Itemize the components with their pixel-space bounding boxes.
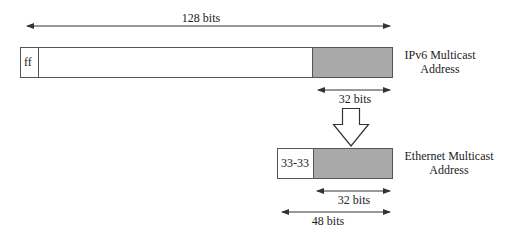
ipv6-address-box [21, 48, 393, 78]
ethernet-name-line2: Address [429, 164, 468, 177]
ipv6-name-line1: IPv6 Multicast [405, 49, 476, 62]
ethernet-name-line1: Ethernet Multicast [405, 150, 494, 163]
ipv6-low-32-field [313, 48, 393, 78]
ethernet-width-label: 48 bits [312, 215, 344, 228]
ethernet-prefix-label: 33-33 [281, 157, 309, 170]
ipv6-low-bits-label: 32 bits [339, 93, 371, 106]
ipv6-width-label: 128 bits [182, 12, 220, 25]
ethernet-low-bits-label: 32 bits [338, 194, 370, 207]
ethernet-low-32-field [314, 149, 393, 179]
mapping-arrow-icon [334, 109, 369, 147]
ipv6-prefix-label: ff [24, 56, 32, 69]
ipv6-name-line2: Address [420, 63, 459, 76]
diagram-canvas [0, 0, 516, 237]
